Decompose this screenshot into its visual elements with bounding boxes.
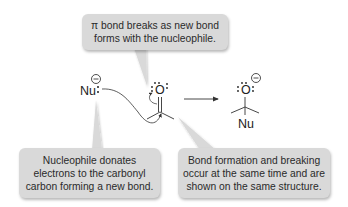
callout-line: carbon forming a new bond.: [19, 180, 160, 193]
right-callout-tail: [178, 117, 216, 150]
nucleophile-label: Nu: [80, 84, 96, 98]
nucleophile: Nu: [80, 75, 101, 99]
callout-pi-bond-breaks: π bond breaks as new bond forms with the…: [82, 14, 228, 50]
product-oxygen-label: O: [241, 83, 251, 97]
top-callout-tail: [134, 48, 147, 86]
callout-line: Bond formation and breaking: [178, 154, 330, 167]
alkoxide-product: O Nu: [231, 74, 261, 132]
product-nucleophile-label: Nu: [238, 117, 254, 131]
carbonyl-reactant: O: [147, 82, 174, 119]
negative-charge-icon: [92, 75, 101, 84]
callout-line: Nucleophile donates: [19, 154, 160, 167]
callout-line: forms with the nucleophile.: [82, 32, 228, 45]
callout-line: π bond breaks as new bond: [82, 19, 228, 32]
oxygen-label: O: [155, 83, 165, 97]
negative-charge-icon: [252, 74, 261, 83]
callout-bond-formation-breaking: Bond formation and breaking occur at the…: [178, 148, 330, 198]
nucleophile-attack-arrow: [102, 89, 161, 123]
left-callout-tail: [92, 100, 102, 150]
callout-nucleophile-donates: Nucleophile donates electrons to the car…: [19, 148, 160, 198]
callout-line: shown on the same structure.: [178, 180, 330, 193]
callout-line: occur at the same time and are: [178, 167, 330, 180]
callout-line: electrons to the carbonyl: [19, 167, 160, 180]
